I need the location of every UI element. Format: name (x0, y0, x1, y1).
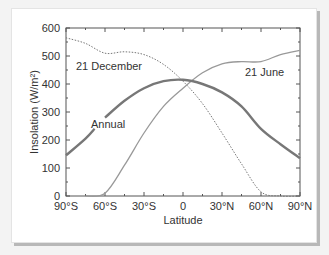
x-tick-labels: 90°S60°S30°S030°N60°N90°N (54, 200, 312, 212)
annotation-annual: Annual (91, 118, 125, 130)
y-axis-title: Insolation (W/m²) (28, 70, 40, 154)
x-tick-label: 30°S (132, 200, 156, 212)
annotation-21-june: 21 June (245, 66, 284, 78)
y-tick-label: 600 (42, 22, 60, 34)
x-tick-label: 90°S (54, 200, 78, 212)
series-annual (66, 129, 95, 156)
annotation-21-december: 21 December (76, 60, 142, 72)
series-annual-segment (105, 80, 300, 159)
x-tick-label: 60°S (93, 200, 117, 212)
y-tick-label: 500 (42, 50, 60, 62)
x-tick-label: 60°N (249, 200, 274, 212)
y-tick-label: 100 (42, 162, 60, 174)
y-tick-labels: 0100200300400500600 (42, 22, 60, 202)
y-tick-label: 400 (42, 78, 60, 90)
x-axis-title: Latitude (163, 214, 202, 226)
x-tick-label: 0 (180, 200, 186, 212)
plot-area (66, 28, 300, 196)
x-tick-label: 30°N (210, 200, 235, 212)
axis-ticks (66, 28, 300, 196)
insolation-chart: 0100200300400500600 90°S60°S30°S030°N60°… (0, 0, 329, 255)
x-tick-label: 90°N (288, 200, 313, 212)
y-tick-label: 300 (42, 106, 60, 118)
y-tick-label: 200 (42, 134, 60, 146)
